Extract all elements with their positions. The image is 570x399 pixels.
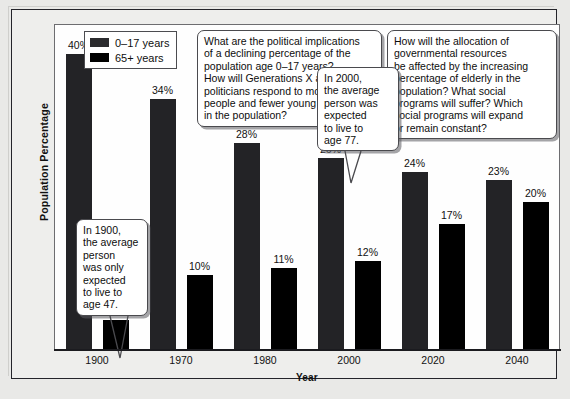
bar-2040-65plus (523, 202, 549, 349)
bar-value-label-2040-0-17: 23% (478, 165, 520, 177)
callout-1900-life-expectancy: In 1900,the averagepersonwas onlyexpecte… (76, 219, 148, 316)
legend-item-65-plus: 65+ years (90, 50, 169, 65)
callout-1900-life-expectancy-line-6: age 47. (83, 298, 141, 310)
callout-2000-life-expectancy: In 2000,the averageperson wasexpectedto … (317, 67, 399, 151)
x-axis-title: Year (54, 372, 560, 383)
x-axis-tick-labels: 190019701980200020202040 (54, 354, 560, 370)
legend-label-65-plus: 65+ years (115, 52, 164, 64)
legend-swatch-icon-65-plus (90, 53, 109, 62)
figure-frame: Population Percentage 40%4%34%10%28%11%2… (11, 9, 557, 379)
x-axis-line (54, 349, 561, 351)
callout-resource-allocation-line-3: percentage of elderly in the (394, 72, 550, 84)
callout-2000-life-expectancy-line-0: In 2000, (324, 72, 392, 84)
callout-resource-allocation-line-2: be affected by the increasing (394, 60, 550, 72)
bar-value-label-1980-0-17: 28% (226, 128, 268, 140)
callout-resource-allocation-line-1: governmental resources (394, 47, 550, 59)
callout-resource-allocation-line-7: or remain constant? (394, 122, 550, 134)
x-tick-1980: 1980 (235, 354, 295, 366)
bar-value-label-2020-65plus: 17% (431, 209, 473, 221)
callout-1900-life-expectancy-line-5: to live to (83, 286, 141, 298)
bar-2040-0-17 (486, 180, 512, 349)
callout-resource-allocation: How will the allocation ofgovernmental r… (387, 30, 557, 139)
bar-value-label-2040-65plus: 20% (515, 187, 557, 199)
x-tick-2020: 2020 (403, 354, 463, 366)
callout-resource-allocation-line-4: population? What social (394, 85, 550, 97)
bar-1980-0-17 (234, 143, 260, 349)
y-axis-title: Population Percentage (38, 82, 50, 242)
x-tick-1970: 1970 (151, 354, 211, 366)
callout-2000-life-expectancy-pointer-tail (317, 151, 399, 187)
callout-2000-life-expectancy-line-4: to live to (324, 122, 392, 134)
bar-1980-65plus (271, 268, 297, 349)
bar-2020-65plus (439, 224, 465, 349)
bar-value-label-2020-0-17: 24% (394, 157, 436, 169)
callout-2000-life-expectancy-line-2: person was (324, 97, 392, 109)
callout-resource-allocation-line-5: programs will suffer? Which (394, 97, 550, 109)
callout-1900-life-expectancy-line-0: In 1900, (83, 224, 141, 236)
callout-resource-allocation-line-6: social programs will expand (394, 109, 550, 121)
bar-2020-0-17 (402, 172, 428, 349)
chart-legend: 0–17 years 65+ years (84, 31, 177, 69)
callout-1900-life-expectancy-line-2: person (83, 249, 141, 261)
callout-resource-allocation-line-0: How will the allocation of (394, 35, 550, 47)
plot-area: 40%4%34%10%28%11%26%12%24%17%23%20% In 1… (54, 24, 560, 350)
callout-2000-life-expectancy-line-5: age 77. (324, 134, 392, 146)
callout-2000-life-expectancy-line-1: the average (324, 84, 392, 96)
legend-label-0-17: 0–17 years (115, 37, 169, 49)
callout-1900-life-expectancy-line-4: expected (83, 274, 141, 286)
callout-1900-life-expectancy-line-1: the average (83, 236, 141, 248)
bar-value-label-1970-65plus: 10% (179, 260, 221, 272)
bar-value-label-1970-0-17: 34% (142, 84, 184, 96)
bar-2000-65plus (355, 261, 381, 349)
callout-political-implications-line-1: of a declining percentage of the (204, 47, 375, 59)
legend-item-0-17: 0–17 years (90, 35, 169, 50)
legend-swatch-icon-0-17 (90, 38, 109, 47)
x-tick-2040: 2040 (487, 354, 547, 366)
callout-1900-life-expectancy-line-3: was only (83, 261, 141, 273)
bar-value-label-2000-65plus: 12% (347, 246, 389, 258)
x-tick-1900: 1900 (67, 354, 127, 366)
x-tick-2000: 2000 (319, 354, 379, 366)
callout-political-implications-line-0: What are the political implications (204, 35, 375, 47)
bar-1970-0-17 (150, 99, 176, 349)
callout-2000-life-expectancy-line-3: expected (324, 109, 392, 121)
bar-value-label-1980-65plus: 11% (263, 253, 305, 265)
bar-1970-65plus (187, 275, 213, 349)
